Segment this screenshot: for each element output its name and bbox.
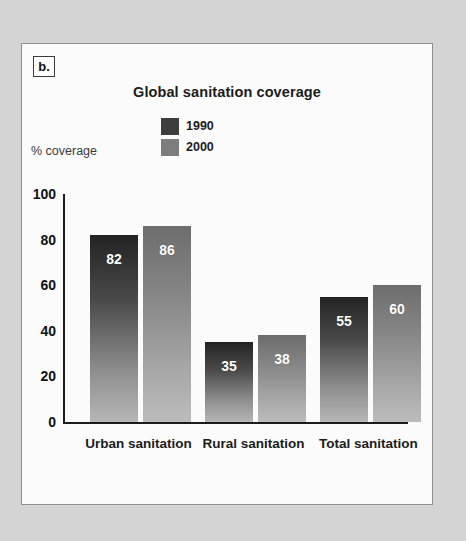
- bar[interactable]: 60: [373, 285, 421, 422]
- y-tick-label: 80: [40, 232, 56, 248]
- figure-panel: b. Global sanitation coverage 19902000 %…: [21, 43, 433, 505]
- legend-swatch-icon: [161, 118, 179, 135]
- y-tick-label: 20: [40, 368, 56, 384]
- bar-value-label: 86: [143, 242, 191, 258]
- category-label: Rural sanitation: [197, 436, 310, 451]
- chart-legend: 19902000: [161, 117, 214, 156]
- plot-area: 020406080100 828635385560: [63, 194, 412, 422]
- bar-value-label: 35: [205, 358, 253, 374]
- bar-value-label: 82: [90, 251, 138, 267]
- bar-value-label: 38: [258, 351, 306, 367]
- bar-group: 3538: [205, 194, 306, 422]
- legend-label: 1990: [186, 119, 214, 133]
- bar-group: 5560: [320, 194, 421, 422]
- bar[interactable]: 86: [143, 226, 191, 422]
- legend-swatch-icon: [161, 139, 179, 156]
- bar[interactable]: 55: [320, 297, 368, 422]
- bar-value-label: 60: [373, 301, 421, 317]
- y-tick-label: 60: [40, 277, 56, 293]
- category-label: Total sanitation: [312, 436, 425, 451]
- bars-layer: 828635385560: [65, 194, 412, 422]
- bar[interactable]: 82: [90, 235, 138, 422]
- x-axis-category-labels: Urban sanitationRural sanitationTotal sa…: [63, 436, 412, 458]
- category-label: Urban sanitation: [82, 436, 195, 451]
- bar[interactable]: 35: [205, 342, 253, 422]
- legend-label: 2000: [186, 140, 214, 154]
- bar[interactable]: 38: [258, 335, 306, 422]
- panel-letter: b.: [33, 56, 55, 77]
- legend-item[interactable]: 1990: [161, 117, 214, 135]
- y-tick-label: 0: [48, 414, 56, 430]
- chart-title: Global sanitation coverage: [22, 84, 432, 100]
- x-axis-line: [63, 422, 408, 424]
- y-tick-label: 100: [33, 186, 56, 202]
- legend-item[interactable]: 2000: [161, 138, 214, 156]
- bar-value-label: 55: [320, 313, 368, 329]
- y-tick-label: 40: [40, 323, 56, 339]
- y-axis-label: % coverage: [31, 144, 97, 158]
- bar-group: 8286: [90, 194, 191, 422]
